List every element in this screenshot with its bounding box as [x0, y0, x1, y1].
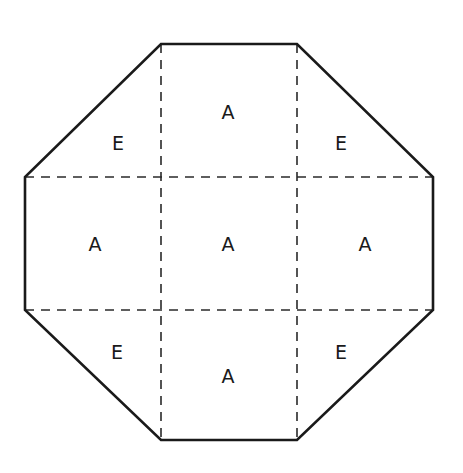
label-center: A [222, 233, 235, 255]
label-middle-right: A [359, 233, 372, 255]
label-top-left: E [112, 132, 124, 154]
octagon-diagram: E A E A A A E A E [0, 0, 463, 473]
label-middle-left: A [89, 233, 102, 255]
label-top-right: E [335, 132, 347, 154]
label-bottom-left: E [111, 341, 123, 363]
label-bottom-center: A [222, 365, 235, 387]
label-top-center: A [222, 101, 235, 123]
label-bottom-right: E [335, 341, 347, 363]
